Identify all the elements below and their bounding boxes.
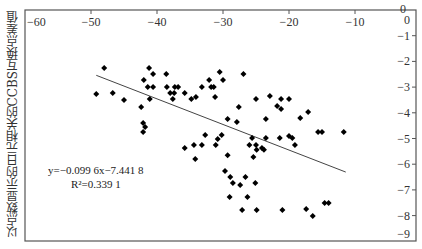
data-point — [326, 200, 332, 206]
y-tick-label: −6 — [397, 157, 410, 171]
data-point — [150, 84, 156, 90]
y-tick-label: −3 — [397, 80, 410, 94]
data-point — [202, 132, 208, 138]
data-point — [121, 97, 127, 103]
data-point — [227, 174, 233, 180]
data-point — [140, 129, 146, 135]
x-tick-label: −20 — [280, 15, 299, 29]
data-point — [319, 129, 325, 135]
data-point — [310, 213, 316, 219]
data-point — [164, 84, 170, 90]
data-point — [249, 135, 255, 141]
r-squared-text: R²=0.339 1 — [48, 177, 144, 191]
y-tick-label: −2 — [397, 54, 410, 68]
data-point — [246, 142, 252, 148]
data-point — [110, 90, 116, 96]
data-point — [220, 77, 226, 83]
data-point — [244, 194, 250, 200]
data-point — [278, 96, 284, 102]
data-point — [163, 71, 169, 77]
data-point — [225, 152, 231, 158]
scatter-plot: −60−50−40−30−20−100 0−1−2−3−4−5−6−7−8−9 — [0, 0, 422, 249]
data-point — [297, 115, 303, 121]
data-point — [286, 96, 292, 102]
regression-equation: y=−0.099 6x−7.441 8 R²=0.339 1 — [48, 163, 144, 191]
data-point — [222, 168, 228, 174]
data-point — [254, 147, 260, 153]
data-point — [230, 180, 236, 186]
data-point — [213, 142, 219, 148]
data-point — [219, 132, 225, 138]
data-point — [212, 94, 218, 100]
data-point — [199, 84, 205, 90]
data-point — [215, 136, 221, 142]
data-point — [252, 180, 258, 186]
x-tick-label: −30 — [214, 15, 233, 29]
data-point — [236, 104, 242, 110]
x-tick-label: −10 — [346, 15, 365, 29]
x-tick-label: −40 — [148, 15, 167, 29]
data-point — [240, 71, 246, 77]
data-point — [253, 96, 259, 102]
y-tick-label: −1 — [397, 29, 410, 43]
y-tick-label: −5 — [397, 132, 410, 146]
data-point — [93, 91, 99, 97]
data-point — [254, 207, 260, 213]
y-tick-label: −7 — [397, 183, 410, 197]
plot-frame — [25, 10, 416, 241]
data-point — [170, 96, 176, 102]
data-point — [267, 93, 273, 99]
data-point — [341, 129, 347, 135]
y-axis-label: 以点数显示的日元相关的CCBS互换点差值 — [2, 8, 22, 242]
chart-container: −60−50−40−30−20−100 0−1−2−3−4−5−6−7−8−9 … — [0, 0, 422, 249]
equation-text: y=−0.099 6x−7.441 8 — [48, 163, 144, 177]
data-point — [263, 116, 269, 122]
data-point — [217, 69, 223, 75]
data-point — [182, 145, 188, 151]
data-point — [141, 77, 147, 83]
y-axis-label-text: 以点数显示的日元相关的CCBS互换点差值 — [4, 11, 21, 238]
data-point — [239, 207, 245, 213]
y-axis: 0−1−2−3−4−5−6−7−8−9 — [397, 13, 416, 241]
data-point — [234, 119, 240, 125]
data-point — [171, 90, 177, 96]
y-tick-label: −9 — [397, 227, 410, 241]
data-point — [303, 206, 309, 212]
data-point — [146, 65, 152, 71]
data-point — [227, 194, 233, 200]
y-tick-label: −8 — [397, 209, 410, 223]
x-axis: −60−50−40−30−20−100 — [27, 2, 406, 29]
data-point — [237, 182, 243, 188]
data-point — [253, 142, 259, 148]
trendline — [96, 75, 345, 172]
regression-line — [96, 75, 345, 172]
data-point — [206, 77, 212, 83]
y-tick-label: 0 — [404, 13, 410, 27]
x-tick-label: −60 — [27, 15, 46, 29]
x-tick-label: −50 — [82, 15, 101, 29]
data-point — [175, 84, 181, 90]
data-point — [242, 174, 248, 180]
data-point — [277, 135, 283, 141]
data-point — [138, 104, 144, 110]
data-point — [292, 142, 298, 148]
data-point — [199, 142, 205, 148]
plot-border — [25, 10, 416, 241]
data-point — [182, 90, 188, 96]
data-point — [225, 116, 231, 122]
data-point — [279, 207, 285, 213]
data-point — [305, 109, 311, 115]
y-tick-label: −4 — [397, 106, 410, 120]
data-points — [93, 65, 347, 219]
data-point — [145, 84, 151, 90]
data-point — [150, 71, 156, 77]
data-point — [101, 65, 107, 71]
data-point — [191, 142, 197, 148]
data-point — [250, 154, 256, 160]
data-point — [192, 156, 198, 162]
